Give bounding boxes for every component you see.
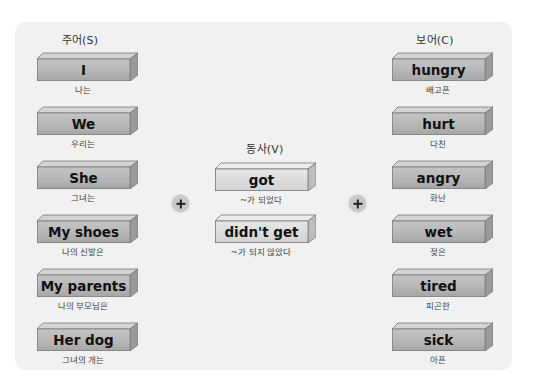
subject-block: Her dog (37, 322, 138, 351)
complement-word: sick (392, 329, 485, 351)
complement-word: tired (392, 275, 485, 297)
subject-gloss: 나는 (23, 83, 143, 95)
verb-gloss: ~가 되지 않았다 (201, 245, 321, 257)
plus-icon (172, 195, 189, 212)
complement-block: hurt (392, 106, 493, 135)
subject-column-header: 주어(S) (20, 31, 140, 47)
verb-word: got (215, 169, 308, 191)
subject-block: I (37, 52, 138, 81)
subject-word: Her dog (37, 329, 130, 351)
complement-word: hungry (392, 59, 485, 81)
complement-gloss: 피곤한 (378, 299, 498, 311)
complement-word: wet (392, 221, 485, 243)
subject-gloss: 그녀는 (23, 191, 143, 203)
verb-word: didn't get (215, 221, 308, 243)
complement-block: tired (392, 268, 493, 297)
complement-gloss: 화난 (378, 191, 498, 203)
plus-icon (349, 195, 366, 212)
complement-column-header: 보어(C) (375, 31, 495, 47)
complement-block: angry (392, 160, 493, 189)
subject-word: I (37, 59, 130, 81)
complement-block: sick (392, 322, 493, 351)
subject-gloss: 그녀의 개는 (23, 353, 143, 365)
complement-gloss: 다친 (378, 137, 498, 149)
subject-block: She (37, 160, 138, 189)
verb-gloss: ~가 되었다 (201, 193, 321, 205)
complement-gloss: 아픈 (378, 353, 498, 365)
subject-gloss: 나의 부모님은 (23, 299, 143, 311)
verb-block: didn't get (215, 214, 316, 243)
subject-gloss: 나의 신발은 (23, 245, 143, 257)
subject-word: My parents (37, 275, 130, 297)
subject-gloss: 우리는 (23, 137, 143, 149)
complement-block: hungry (392, 52, 493, 81)
complement-gloss: 젖은 (378, 245, 498, 257)
complement-gloss: 배고픈 (378, 83, 498, 95)
complement-word: angry (392, 167, 485, 189)
verb-column-header: 동사(V) (205, 140, 325, 156)
subject-word: We (37, 113, 130, 135)
subject-block: My parents (37, 268, 138, 297)
complement-word: hurt (392, 113, 485, 135)
subject-word: She (37, 167, 130, 189)
subject-block: My shoes (37, 214, 138, 243)
subject-word: My shoes (37, 221, 130, 243)
verb-block: got (215, 162, 316, 191)
complement-block: wet (392, 214, 493, 243)
subject-block: We (37, 106, 138, 135)
